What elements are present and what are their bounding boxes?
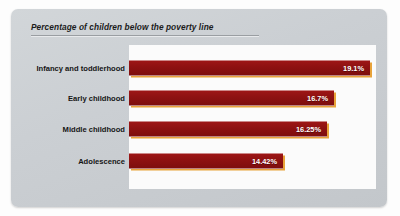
bar-early-childhood[interactable]: 16.7% (129, 91, 334, 106)
page-title: Percentage of children below the poverty… (31, 22, 271, 32)
bar-value-label: 16.25% (296, 125, 321, 134)
bar-value-label: 19.1% (343, 64, 364, 73)
bar-row: Infancy and toddlerhood 19.1% (11, 53, 387, 83)
bar-row: Adolescence 14.42% (11, 146, 387, 176)
bar-category-label: Adolescence (78, 157, 125, 166)
bar-category-label: Middle childhood (63, 125, 125, 134)
bar-category-label: Infancy and toddlerhood (36, 64, 125, 73)
bar-adolescence[interactable]: 14.42% (129, 154, 283, 169)
chart-title-block: Percentage of children below the poverty… (31, 22, 271, 36)
bar-row: Middle childhood 16.25% (11, 114, 387, 144)
bar-category-label: Early childhood (68, 94, 125, 103)
bar-infancy-and-toddlerhood[interactable]: 19.1% (129, 61, 370, 76)
bar-value-label: 16.7% (307, 94, 328, 103)
bar-value-label: 14.42% (252, 157, 277, 166)
chart-figure: Percentage of children below the poverty… (0, 0, 400, 216)
title-divider (31, 35, 259, 36)
bar-middle-childhood[interactable]: 16.25% (129, 122, 327, 137)
chart-panel: Percentage of children below the poverty… (11, 9, 387, 207)
bar-row: Early childhood 16.7% (11, 83, 387, 113)
